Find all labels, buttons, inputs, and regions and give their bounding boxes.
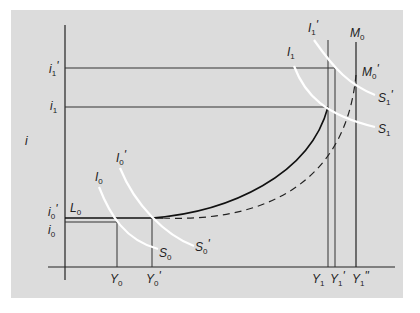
LM-solid-curve — [152, 107, 328, 218]
label-M0-prime: M0' — [362, 62, 379, 81]
label-I1: I1 — [287, 45, 295, 61]
tick-Y0-prime: Y0' — [146, 269, 161, 288]
tick-i1-prime: i1' — [49, 59, 59, 78]
label-I0-prime: I0' — [116, 148, 127, 167]
diagram-canvas: i i1' i1 i0' i0 Y0 Y0' Y1 Y1' Y1" L0 M0 … — [0, 0, 420, 313]
tick-Y1-prime: Y1' — [330, 269, 345, 288]
tick-Y1-doubleprime: Y1" — [352, 269, 369, 288]
label-S1-prime: S1' — [378, 88, 393, 107]
tick-i0-prime: i0' — [48, 202, 58, 221]
label-S0: S0 — [159, 246, 172, 262]
label-I1-prime: I1' — [308, 18, 319, 37]
tick-Y0: Y0 — [110, 272, 123, 288]
tick-Y1: Y1 — [312, 272, 325, 288]
tick-i1: i1 — [50, 99, 58, 115]
label-S1: S1 — [378, 122, 391, 138]
tick-i0: i0 — [48, 223, 56, 239]
i0-guide — [65, 222, 117, 267]
label-S0-prime: S0' — [195, 237, 210, 256]
label-M0: M0 — [350, 26, 365, 42]
label-I0: I0 — [95, 170, 103, 186]
LM-dashed-curve — [163, 75, 356, 218]
y-axis-label: i — [25, 134, 28, 148]
label-L0: L0 — [70, 201, 82, 217]
